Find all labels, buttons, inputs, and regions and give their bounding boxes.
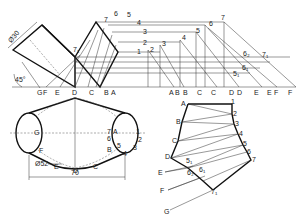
plan-label-5: 5 xyxy=(117,142,121,149)
gen-label-1: 1 xyxy=(137,48,141,55)
tl-top-5: 5 xyxy=(196,27,200,34)
tl-label-C: C xyxy=(197,89,202,96)
gen-label-7: 7 xyxy=(104,16,108,23)
dev-label-A: A xyxy=(181,100,186,107)
plan-label-G: G xyxy=(34,129,39,136)
dimension-diameter-52: Ø52 xyxy=(35,160,48,167)
label-G: G xyxy=(37,89,42,96)
tl-label-E2: E xyxy=(267,89,272,96)
plan-label-2: 2 xyxy=(138,136,142,143)
tl-top-6-2: 6₂ xyxy=(243,50,250,57)
gen-label-3: 3 xyxy=(143,28,147,35)
dev-label-4: 4 xyxy=(239,130,243,137)
label-F: F xyxy=(43,89,47,96)
gen-label-6: 6 xyxy=(114,10,118,17)
dev-label-2: 2 xyxy=(233,110,237,117)
label-D: D xyxy=(72,89,77,96)
dev-label-6-2: 6₂ xyxy=(187,169,194,176)
dev-label-B: B xyxy=(176,118,181,125)
tl-label-B2: B xyxy=(183,89,188,96)
plan-label-4: 4 xyxy=(123,150,127,157)
development-view: A B C D E F G 1 2 3 4 5 6 7 5₁ 6₂ 6₁ 7₁ xyxy=(158,98,256,215)
gen-label-4: 4 xyxy=(137,19,141,26)
plan-label-B: B xyxy=(107,146,112,153)
tl-label-E: E xyxy=(254,89,259,96)
dimension-diameter-30: Ø30 xyxy=(7,29,21,44)
dev-label-E: E xyxy=(158,169,163,176)
dev-label-5-1: 5₁ xyxy=(186,157,193,164)
dev-label-7-1: 7₁ xyxy=(211,188,218,195)
dev-label-1: 1 xyxy=(231,98,235,105)
dev-label-3: 3 xyxy=(235,120,239,127)
tl-top-7-1: 7₁ xyxy=(262,51,269,58)
technical-drawing: Ø30 45° xyxy=(0,0,302,224)
dimension-angle-45: 45° xyxy=(15,76,26,83)
tl-label-F2: F xyxy=(288,89,292,96)
dev-label-6: 6 xyxy=(247,148,251,155)
dev-label-G: G xyxy=(164,208,169,215)
plan-label-C: C xyxy=(93,163,98,170)
plan-label-D: D xyxy=(73,167,78,174)
cylinder-inner-line xyxy=(22,62,40,88)
label-B: B xyxy=(104,89,109,96)
label-A: A xyxy=(111,89,116,96)
label-C: C xyxy=(89,89,94,96)
plan-label-7: 7 xyxy=(107,128,111,135)
plan-top-outline xyxy=(29,98,125,113)
tl-label-B: B xyxy=(175,89,180,96)
gen-label-7-1: 7₁ xyxy=(73,46,80,53)
tl-top-7: 7 xyxy=(221,14,225,21)
dev-label-7: 7 xyxy=(252,156,256,163)
plan-label-F: F xyxy=(39,147,43,154)
dev-label-D: D xyxy=(165,153,170,160)
tl-top-5-1: 5₁ xyxy=(233,70,240,77)
label-E: E xyxy=(55,89,60,96)
tl-top-3: 3 xyxy=(162,40,166,47)
dev-label-F: F xyxy=(160,187,164,194)
cone-body-outline xyxy=(75,22,118,87)
tl-top-6: 6 xyxy=(209,20,213,27)
tl-label-D2: D xyxy=(237,89,242,96)
plan-label-1: 1 xyxy=(136,128,140,135)
dev-label-6-1: 6₁ xyxy=(199,166,206,173)
tl-top-2: 2 xyxy=(150,46,154,53)
gen-label-2: 2 xyxy=(143,39,147,46)
plan-label-A: A xyxy=(113,128,118,135)
plan-label-6: 6 xyxy=(107,135,111,142)
gen-label-5: 5 xyxy=(127,11,131,18)
tl-label-D: D xyxy=(229,89,234,96)
plan-label-E: E xyxy=(54,163,59,170)
tl-label-C2: C xyxy=(211,89,216,96)
dev-label-C: C xyxy=(172,137,177,144)
tl-label-F: F xyxy=(274,89,278,96)
elevation-view: Ø30 45° xyxy=(7,10,296,96)
tl-top-6-1: 6₁ xyxy=(242,64,249,71)
dev-label-5: 5 xyxy=(243,140,247,147)
development-left-edge xyxy=(171,104,213,190)
tl-label-A: A xyxy=(169,89,174,96)
plan-view: 70 Ø52 G F E D C B A 1 2 3 4 5 6 7 xyxy=(10,98,145,180)
tl-top-4: 4 xyxy=(182,34,186,41)
plan-label-3: 3 xyxy=(133,144,137,151)
